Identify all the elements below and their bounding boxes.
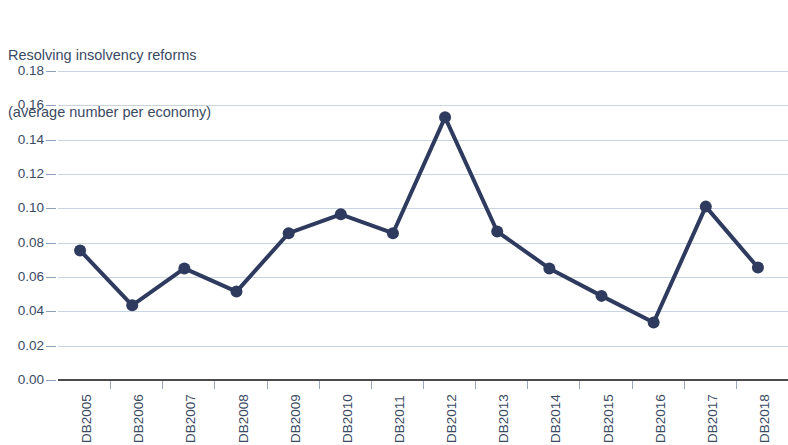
data-point-marker [387, 227, 399, 239]
data-point-marker [439, 111, 451, 123]
data-point-marker [231, 286, 243, 298]
data-point-marker [752, 262, 764, 274]
data-point-marker [335, 208, 347, 220]
series-line [80, 117, 758, 322]
data-point-marker [126, 299, 138, 311]
data-point-marker [74, 244, 86, 256]
data-point-marker [700, 201, 712, 213]
chart-root: Resolving insolvency reforms (average nu… [0, 0, 788, 445]
data-point-marker [491, 226, 503, 238]
data-point-marker [648, 316, 660, 328]
data-point-marker [543, 262, 555, 274]
data-point-marker [596, 290, 608, 302]
insolvency-reforms-line-series [0, 0, 788, 445]
data-point-marker [283, 227, 295, 239]
data-point-marker [178, 262, 190, 274]
